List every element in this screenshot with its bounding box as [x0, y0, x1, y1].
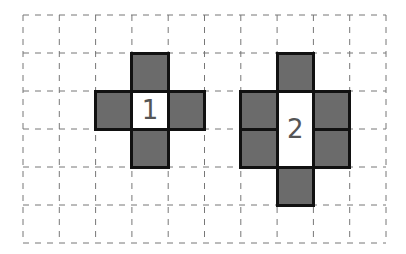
gray-square — [239, 128, 278, 169]
gray-square — [94, 90, 133, 131]
gray-square — [276, 166, 315, 207]
gray-square — [167, 90, 206, 131]
figure-center-2: 2 — [276, 90, 315, 169]
gray-square — [130, 52, 169, 93]
gray-square — [239, 90, 278, 131]
grid-diagram: 12 — [0, 0, 406, 254]
gray-square — [312, 90, 351, 131]
gray-square — [312, 128, 351, 169]
gray-square — [276, 52, 315, 93]
figure-center-1: 1 — [130, 90, 169, 131]
gray-square — [130, 128, 169, 169]
figure-label: 2 — [287, 114, 304, 144]
figure-label: 1 — [142, 95, 159, 125]
